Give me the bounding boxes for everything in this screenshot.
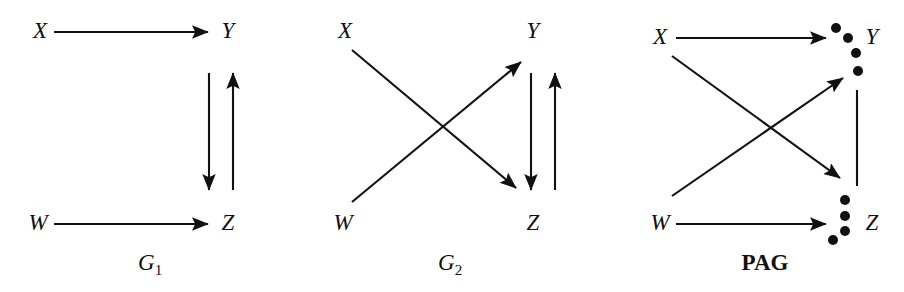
edge-x-to-z — [672, 56, 840, 178]
circle-endpoint-y-1 — [831, 23, 841, 33]
node-label-pag-z: Z — [866, 211, 879, 234]
panel-caption-pag: PAG — [742, 251, 789, 274]
panel-pag-edges — [0, 0, 904, 292]
circle-endpoint-y-4 — [853, 66, 863, 76]
panel-pag: XYWZPAG — [0, 0, 904, 292]
panel-caption-pag-text: PAG — [742, 250, 789, 275]
circle-endpoint-z-1 — [840, 195, 850, 205]
causal-graph-figure: XYWZG1XYWZG2XYWZPAG — [0, 0, 904, 292]
circle-endpoint-y-2 — [843, 33, 853, 43]
edge-w-to-y — [672, 78, 843, 196]
circle-endpoint-y-3 — [851, 48, 861, 58]
circle-endpoint-z-3 — [840, 226, 850, 236]
node-label-pag-x: X — [653, 25, 667, 48]
node-label-pag-y: Y — [866, 25, 879, 48]
node-label-pag-w: W — [650, 211, 669, 234]
circle-endpoint-z-4 — [828, 235, 838, 245]
circle-endpoint-z-2 — [840, 211, 850, 221]
